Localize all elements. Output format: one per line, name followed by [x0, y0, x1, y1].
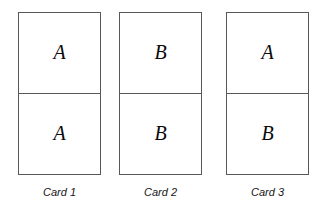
card-1-caption: Card 1 — [18, 186, 101, 199]
card-1[interactable]: A A — [18, 12, 101, 175]
card-1-top-half[interactable]: A — [19, 13, 100, 94]
cards-figure: A A Card 1 B B Card 2 A B Card 3 — [0, 0, 327, 209]
card-2[interactable]: B B — [119, 12, 202, 175]
card-2-caption: Card 2 — [119, 186, 202, 199]
card-3-caption: Card 3 — [226, 186, 309, 199]
card-3-top-half[interactable]: A — [227, 13, 308, 94]
card-3-bottom-letter: B — [261, 123, 273, 143]
card-2-bottom-letter: B — [154, 123, 166, 143]
card-3-bottom-half[interactable]: B — [227, 94, 308, 175]
card-3-top-letter: A — [261, 42, 273, 62]
card-2-top-letter: B — [154, 42, 166, 62]
card-1-top-letter: A — [53, 42, 65, 62]
card-2-bottom-half[interactable]: B — [120, 94, 201, 175]
card-3[interactable]: A B — [226, 12, 309, 175]
card-1-bottom-half[interactable]: A — [19, 94, 100, 175]
card-2-top-half[interactable]: B — [120, 13, 201, 94]
card-1-bottom-letter: A — [53, 123, 65, 143]
